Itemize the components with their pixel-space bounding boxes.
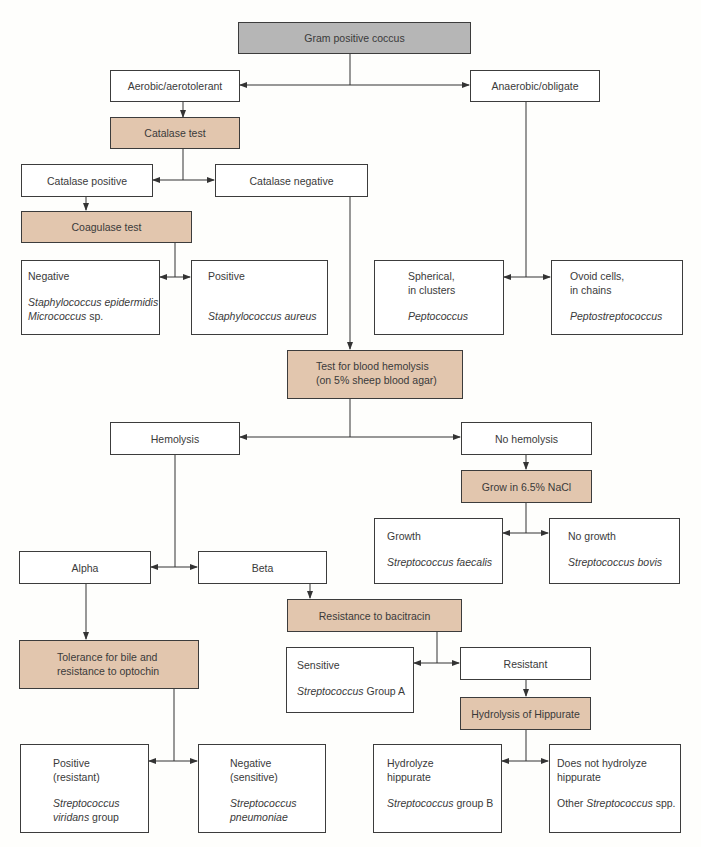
node-hippurate-test: Hydrolysis of Hippurate: [460, 697, 591, 730]
node-no-hydrolyze: Does not hydrolyze hippurate Other Strep…: [549, 744, 681, 833]
result-label: hippurate: [557, 770, 680, 784]
result-label: (sensitive): [230, 770, 325, 784]
organism-name: Peptostreptococcus: [570, 310, 662, 322]
node-ovoid: Ovoid cells, in chains Peptostreptococcu…: [551, 260, 683, 335]
node-nacl-test: Grow in 6.5% NaCl: [461, 470, 592, 503]
result-label: Growth: [387, 529, 502, 543]
node-label: Resistant: [504, 657, 548, 671]
result-label: (resistant): [53, 770, 148, 784]
node-label: (on 5% sheep blood agar): [316, 373, 462, 387]
node-hemolysis: Hemolysis: [110, 422, 240, 455]
organism-suffix: sp.: [86, 310, 103, 322]
organism-name: viridans: [53, 811, 89, 823]
result-label: No growth: [568, 529, 679, 543]
node-aerobic: Aerobic/aerotolerant: [110, 70, 240, 102]
node-label: Beta: [252, 561, 274, 575]
node-catalase-test: Catalase test: [110, 117, 240, 149]
organism-name: Streptococcus: [387, 797, 454, 809]
organism-name: Streptococcus faecalis: [387, 556, 492, 568]
node-hydrolyze: Hydrolyze hippurate Streptococcus group …: [373, 744, 502, 833]
node-label: Anaerobic/obligate: [492, 79, 579, 93]
node-optochin-positive: Positive (resistant) Streptococcus virid…: [20, 744, 149, 833]
node-label: resistance to optochin: [57, 664, 198, 678]
node-coagulase-test: Coagulase test: [21, 211, 192, 243]
organism-name: Staphylococcus aureus: [208, 310, 317, 322]
organism-name: Peptococcus: [408, 310, 468, 322]
connector-lines: [0, 0, 701, 847]
node-beta: Beta: [198, 551, 327, 584]
organism-suffix: Group A: [364, 685, 405, 697]
result-label: in clusters: [408, 283, 503, 297]
node-catalase-negative: Catalase negative: [215, 164, 368, 197]
node-growth: Growth Streptococcus faecalis: [374, 518, 503, 584]
node-sensitive: Sensitive Streptococcus Group A: [286, 647, 414, 713]
organism-name: Streptococcus: [586, 797, 653, 809]
node-bacitracin-test: Resistance to bacitracin: [287, 599, 462, 632]
result-label: in chains: [570, 283, 682, 297]
node-label: Catalase negative: [249, 174, 333, 188]
result-label: Hydrolyze: [387, 756, 501, 770]
organism-suffix: group: [89, 811, 119, 823]
result-label: Does not hydrolyze: [557, 756, 680, 770]
result-label: Positive: [208, 269, 327, 283]
node-spherical: Spherical, in clusters Peptococcus: [374, 260, 504, 335]
node-no-growth: No growth Streptococcus bovis: [549, 518, 680, 584]
result-label: Positive: [53, 756, 148, 770]
node-label: Hydrolysis of Hippurate: [471, 707, 580, 721]
node-label: No hemolysis: [495, 432, 558, 446]
node-coagulase-positive: Positive Staphylococcus aureus: [191, 260, 328, 335]
node-optochin-test: Tolerance for bile and resistance to opt…: [19, 640, 199, 689]
organism-suffix: spp.: [653, 797, 676, 809]
node-label: Alpha: [72, 561, 99, 575]
node-label: Catalase test: [144, 126, 205, 140]
node-catalase-positive: Catalase positive: [21, 164, 153, 197]
organism-name: Streptococcus: [53, 797, 120, 809]
organism-name: Streptococcus: [230, 797, 297, 809]
node-coagulase-negative: Negative Staphylococcus epidermidis Micr…: [21, 260, 160, 335]
result-label: Ovoid cells,: [570, 269, 682, 283]
node-label: Tolerance for bile and: [57, 650, 198, 664]
result-label: hippurate: [387, 770, 501, 784]
node-label: Hemolysis: [151, 432, 199, 446]
result-label: Negative: [230, 756, 325, 770]
node-anaerobic: Anaerobic/obligate: [470, 70, 600, 102]
node-label: Gram positive coccus: [304, 31, 404, 45]
node-alpha: Alpha: [19, 551, 151, 584]
node-label: Test for blood hemolysis: [316, 359, 462, 373]
node-label: Coagulase test: [71, 220, 141, 234]
node-no-hemolysis: No hemolysis: [461, 422, 592, 455]
node-resistant: Resistant: [460, 647, 591, 680]
organism-name: Streptococcus: [297, 685, 364, 697]
node-label: Aerobic/aerotolerant: [128, 79, 223, 93]
node-gram-positive-coccus: Gram positive coccus: [238, 22, 471, 54]
result-label: Sensitive: [297, 658, 413, 672]
organism-prefix: Other: [557, 797, 586, 809]
node-optochin-negative: Negative (sensitive) Streptococcus pneum…: [198, 744, 326, 833]
node-label: Catalase positive: [47, 174, 127, 188]
node-hemolysis-test: Test for blood hemolysis (on 5% sheep bl…: [287, 350, 463, 399]
organism-name: Staphylococcus epidermidis: [28, 296, 158, 308]
node-label: Resistance to bacitracin: [319, 609, 430, 623]
node-label: Grow in 6.5% NaCl: [482, 480, 571, 494]
organism-name: Micrococcus: [28, 310, 86, 322]
organism-name: Streptococcus bovis: [568, 556, 662, 568]
result-label: Negative: [28, 269, 159, 283]
organism-suffix: group B: [454, 797, 494, 809]
result-label: Spherical,: [408, 269, 503, 283]
organism-name: pneumoniae: [230, 811, 288, 823]
